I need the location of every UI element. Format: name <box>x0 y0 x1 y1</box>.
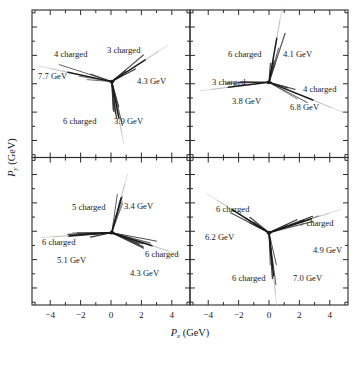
panel-border <box>32 10 190 158</box>
panel-frame-panel-top-left <box>32 10 190 158</box>
x-tick-label: 4 <box>169 310 174 320</box>
jet-label-3-charged: 3 charged <box>212 77 246 87</box>
x-tick-label: 2 <box>297 310 302 320</box>
jet-label-7-charged: 7 charged <box>300 218 334 228</box>
annotations-panel-top-right: 6 charged4.1 GeV3 charged3.8 GeV4 charge… <box>212 49 337 112</box>
x-tick-label: −2 <box>234 310 244 320</box>
jet-tail <box>145 51 158 60</box>
jet-label-6-charged-left: 6 charged <box>216 204 250 214</box>
jet-label-3-9-gev: 3.9 GeV <box>114 116 144 126</box>
jet-label-7-0-gev: 7.0 GeV <box>293 273 323 283</box>
jet-panel-top-right <box>200 8 343 112</box>
jet-3 <box>112 82 124 144</box>
jet-event-display-figure: −4−2024−4−2024Px (GeV)Py (GeV)4 charged7… <box>0 0 360 368</box>
annotations-panel-bottom-left: 5 charged3.4 GeV6 charged5.1 GeV6 charge… <box>42 201 179 278</box>
jet-label-4-3-gev: 4.3 GeV <box>130 268 160 278</box>
x-axis-unit: (GeV) <box>180 327 209 339</box>
jet-label-5-1-gev: 5.1 GeV <box>57 255 87 265</box>
axis-titles: Px (GeV)Py (GeV) <box>6 138 209 340</box>
jet-label-4-3-gev: 4.3 GeV <box>137 76 167 86</box>
y-axis-unit: (GeV) <box>6 138 18 167</box>
jet-tail <box>121 184 125 198</box>
x-axis-title: Px (GeV) <box>170 327 210 340</box>
jet-tail <box>277 20 280 38</box>
x-tick-label: 0 <box>267 310 272 320</box>
jet-label-6-charged-bottom: 6 charged <box>232 273 266 283</box>
jet-label-6-charged-right: 6 charged <box>145 249 179 259</box>
jet-label-4-charged: 4 charged <box>54 49 88 59</box>
jet-panel-top-left <box>38 45 168 143</box>
jet-label-4-charged: 4 charged <box>303 84 337 94</box>
jet-label-6-charged: 6 charged <box>228 49 262 59</box>
jet-label-7-7-gev: 7.7 GeV <box>38 71 68 81</box>
jet-3 <box>269 233 277 306</box>
annotations-panel-top-left: 4 charged7.7 GeV3 charged4.3 GeV6 charge… <box>38 45 167 126</box>
jet-label-3-4-gev: 3.4 GeV <box>124 201 154 211</box>
jet-label-6-charged-left: 6 charged <box>42 237 76 247</box>
x-tick-label: 4 <box>327 310 332 320</box>
jet-label-3-charged: 3 charged <box>107 45 141 55</box>
jet-label-5-charged: 5 charged <box>72 202 106 212</box>
event-vertex <box>266 231 271 235</box>
x-tick-labels: −4−2024−4−2024 <box>45 310 332 320</box>
jet-tail <box>212 87 228 89</box>
x-tick-label: 2 <box>139 310 144 320</box>
jet-label-4-1-gev: 4.1 GeV <box>283 49 313 59</box>
event-vertex <box>109 231 114 235</box>
jet-label-6-charged: 6 charged <box>63 116 97 126</box>
jet-label-3-8-gev: 3.8 GeV <box>232 96 262 106</box>
event-vertex <box>266 80 271 84</box>
jet-label-6-8-gev: 6.8 GeV <box>290 102 320 112</box>
x-tick-label: 0 <box>109 310 114 320</box>
event-vertex <box>109 80 114 84</box>
x-tick-label: −4 <box>45 310 55 320</box>
jet-1 <box>269 8 285 82</box>
y-axis-title: Py (GeV) <box>6 138 19 178</box>
figure-canvas: −4−2024−4−2024Px (GeV)Py (GeV)4 charged7… <box>0 0 360 368</box>
x-tick-label: −2 <box>76 310 86 320</box>
jet-label-6-2-gev: 6.2 GeV <box>205 232 235 242</box>
jet-label-4-9-gev: 4.9 GeV <box>313 245 343 255</box>
x-tick-label: −4 <box>203 310 213 320</box>
